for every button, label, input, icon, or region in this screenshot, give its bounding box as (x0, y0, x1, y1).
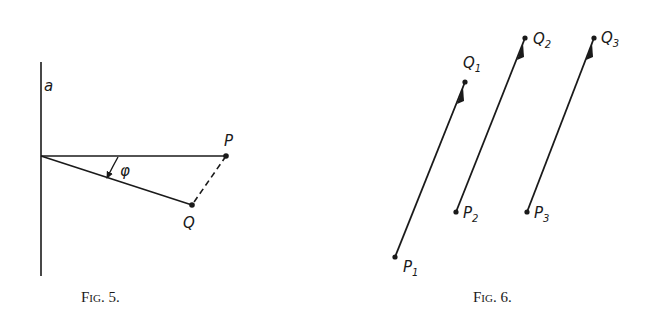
pq-dashed-line (192, 156, 226, 205)
point-p-label: P (224, 132, 234, 150)
figure-6: P1 Q1 P2 Q2 P3 Q3 FIG. 6. (392, 29, 619, 305)
arrowhead-icon (586, 43, 593, 60)
point-q3-label: Q3 (601, 29, 619, 49)
figure-5-caption: FIG. 5. (81, 289, 120, 305)
angle-phi-label: φ (120, 162, 130, 180)
point-q-dot (189, 202, 195, 208)
figure-5: a φ P Q FIG. 5. (41, 62, 234, 305)
axis-a-label: a (44, 77, 53, 95)
point-q2-label: Q2 (533, 30, 551, 50)
arrowhead-icon (517, 43, 524, 60)
vector-p1-q1: P1 Q1 (392, 54, 481, 278)
vector-p3-q3: P3 Q3 (524, 29, 619, 224)
figure-6-caption: FIG. 6. (473, 289, 512, 305)
point-p2-label: P2 (463, 204, 478, 224)
point-q1-label: Q1 (463, 54, 481, 74)
point-q-label: Q (183, 214, 195, 232)
point-p-dot (223, 153, 229, 159)
figures-canvas: a φ P Q FIG. 5. P1 Q1 P2 Q2 (0, 0, 651, 317)
point-p1-label: P1 (403, 258, 418, 278)
arrowhead-icon (457, 87, 464, 104)
angle-phi-arc (108, 157, 118, 176)
point-p3-label: P3 (534, 204, 549, 224)
oq-line (41, 156, 192, 205)
